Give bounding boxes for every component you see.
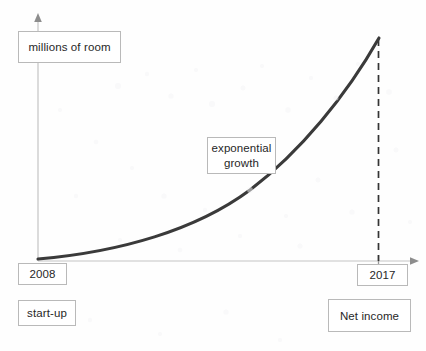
- y-axis-label-box: millions of room: [18, 31, 121, 63]
- y-axis-label-text: millions of room: [28, 40, 110, 54]
- x-axis-end-label-text: 2017: [370, 268, 396, 282]
- x-axis-start-label-text: 2008: [30, 267, 56, 281]
- curve-annotation-box: exponential growth: [207, 137, 276, 174]
- curve-annotation-line-2: growth: [224, 157, 259, 169]
- curve-annotation-text: exponential growth: [212, 141, 272, 171]
- x-axis-start-label-box: 2008: [18, 263, 67, 285]
- x-axis-end-label-box: 2017: [357, 264, 408, 286]
- arrow-up-icon: [34, 13, 42, 22]
- exponential-growth-diagram: millions of room exponential growth 2008…: [0, 0, 426, 351]
- start-phase-text: start-up: [27, 306, 67, 320]
- end-phase-text: Net income: [340, 309, 399, 323]
- curve-annotation-line-1: exponential: [212, 142, 272, 154]
- end-phase-box: Net income: [328, 299, 411, 332]
- arrow-right-icon: [410, 257, 419, 265]
- start-phase-box: start-up: [18, 300, 76, 326]
